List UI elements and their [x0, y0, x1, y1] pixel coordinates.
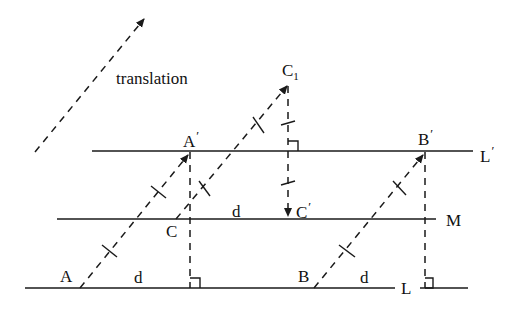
distance-label-d-left: d [134, 269, 143, 286]
point-label-C: C [166, 223, 177, 240]
point-label-C1: C1 [282, 62, 299, 79]
point-letter: C [282, 61, 293, 80]
geometry-diagram: translation C1 A′ B′ L′ d C′ M C A d B d… [0, 0, 523, 314]
subscript: 1 [293, 70, 299, 82]
distance-label-d-middle: d [232, 203, 241, 220]
right-angle-marker-L-A [190, 278, 200, 288]
line-letter: L [480, 147, 490, 166]
right-angle-marker-L-prime [288, 141, 298, 151]
point-letter: C [296, 203, 307, 222]
point-label-A-prime: A′ [183, 133, 199, 150]
prime-mark: ′ [430, 126, 433, 141]
tick-mark [151, 186, 166, 198]
right-angle-marker-L-B [425, 278, 433, 288]
point-label-C-prime: C′ [296, 204, 311, 221]
point-label-B-prime: B′ [418, 131, 433, 148]
translation-label: translation [116, 70, 188, 87]
point-label-B: B [298, 268, 309, 285]
line-label-L-prime: L′ [480, 148, 494, 165]
vector-C-to-C1 [176, 86, 287, 219]
prime-mark: ′ [491, 143, 494, 158]
tick-mark [102, 245, 117, 257]
line-label-L: L [401, 280, 411, 297]
line-label-M: M [446, 212, 461, 229]
point-letter: B [418, 130, 429, 149]
distance-label-d-right: d [360, 269, 369, 286]
diagram-canvas [0, 0, 523, 314]
prime-mark: ′ [308, 199, 311, 214]
tick-mark [281, 121, 295, 125]
point-label-A: A [60, 268, 72, 285]
point-letter: A [183, 132, 195, 151]
prime-mark: ′ [196, 128, 199, 143]
